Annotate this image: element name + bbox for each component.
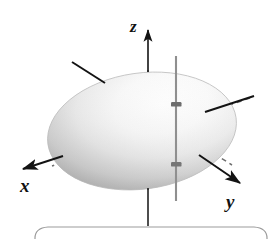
lower-intersection-point [171,162,182,167]
figure-canvas [0,0,276,239]
x-axis-upper-ray [72,62,105,83]
upper-intersection-point [171,102,182,107]
z-axis-label: z [130,18,137,35]
caption-panel [35,227,267,239]
figure-container: z x y [0,0,276,239]
ellipsoid-surface [40,60,244,201]
x-axis-label: x [20,176,30,195]
y-axis-label: y [226,192,234,211]
